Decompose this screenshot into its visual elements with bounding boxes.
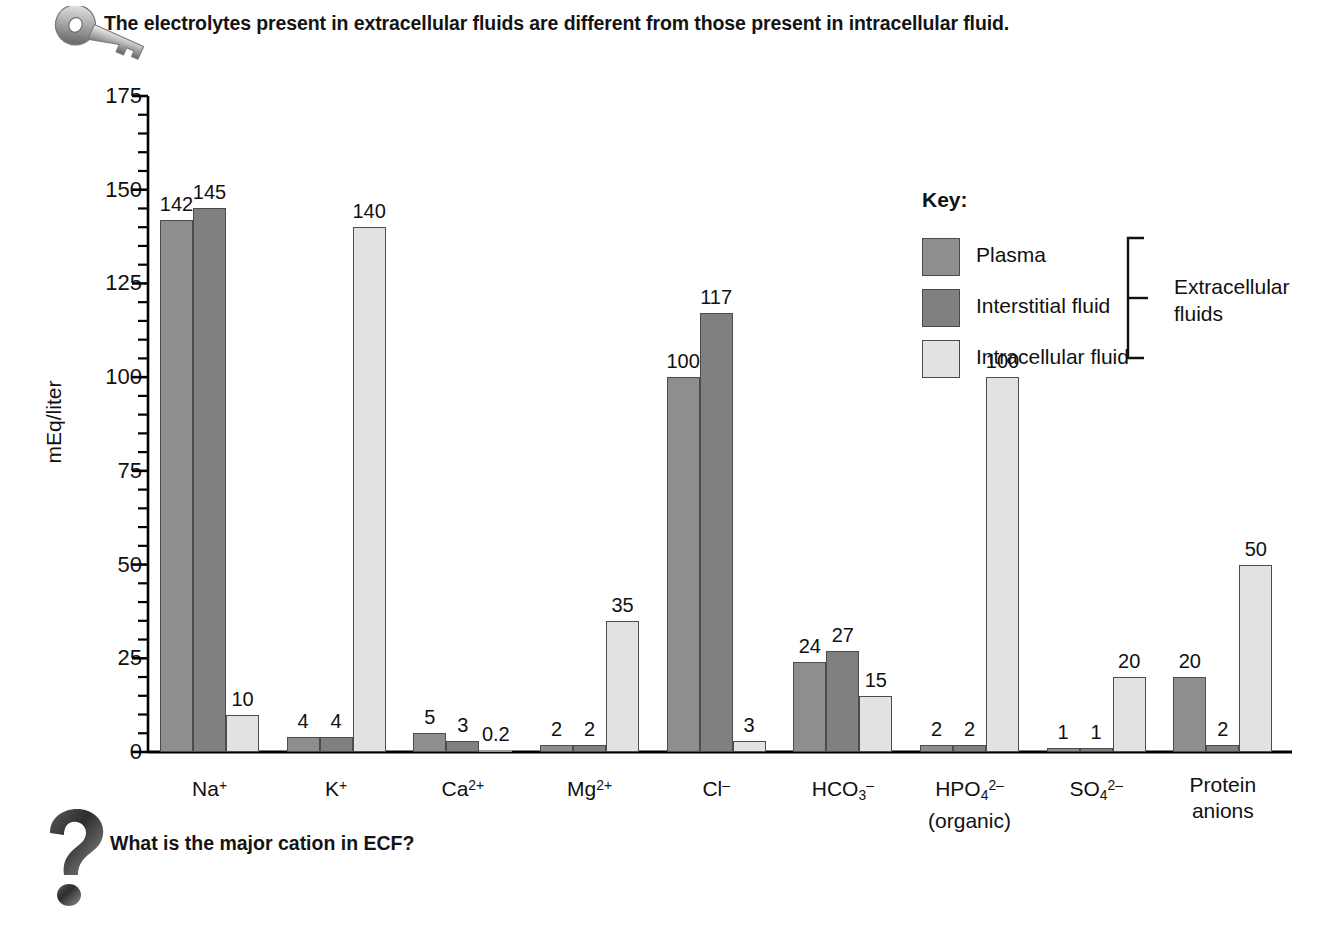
bracket-label: Extracellular fluids	[1174, 273, 1324, 327]
bar	[667, 377, 700, 752]
legend-swatch-intracellular-fluid	[922, 340, 960, 378]
bar-value-label: 10	[231, 688, 253, 711]
x-axis-label: Mg2+	[567, 772, 612, 802]
bar	[1113, 677, 1146, 752]
bar-value-label: 27	[832, 624, 854, 647]
bar	[160, 220, 193, 752]
page-title: The electrolytes present in extracellula…	[104, 11, 1284, 35]
bar	[920, 745, 953, 752]
bar	[1206, 745, 1239, 752]
bar-value-label: 1	[1091, 721, 1102, 744]
x-axis-label: Cl–	[702, 772, 730, 802]
bar-value-label: 4	[331, 710, 342, 733]
bar-value-label: 50	[1245, 538, 1267, 561]
bar	[226, 715, 259, 752]
bar-value-label: 5	[424, 706, 435, 729]
x-axis-label: Ca2+	[441, 772, 484, 802]
bar	[479, 750, 512, 753]
bar-value-label: 0.2	[482, 723, 510, 746]
legend-label-interstitial-fluid: Interstitial fluid	[976, 294, 1110, 318]
bracket-label-line1: Extracellular	[1174, 275, 1290, 298]
bar-group: 2235	[540, 96, 639, 752]
bar	[606, 621, 639, 752]
bar-value-label: 140	[352, 200, 385, 223]
bar	[446, 741, 479, 752]
bar-group: 1001173	[667, 96, 766, 752]
bar-value-label: 2	[584, 718, 595, 741]
bar	[1047, 748, 1080, 752]
bar-group: 530.2	[413, 96, 512, 752]
bar-value-label: 15	[865, 669, 887, 692]
bar-value-label: 100	[666, 350, 699, 373]
bar	[793, 662, 826, 752]
legend-label-plasma: Plasma	[976, 243, 1046, 267]
bar	[953, 745, 986, 752]
bar-group: 44140	[287, 96, 386, 752]
chart: mEq/liter 0255075100125150175 1421451044…	[0, 80, 1326, 780]
bar	[1080, 748, 1113, 752]
legend: Key: Plasma Interstitial fluid Intracell…	[922, 188, 1314, 388]
bar-value-label: 20	[1118, 650, 1140, 673]
bar	[1173, 677, 1206, 752]
bar-value-label: 35	[611, 594, 633, 617]
bar	[413, 733, 446, 752]
bar	[353, 227, 386, 752]
question-text: What is the major cation in ECF?	[110, 832, 414, 855]
bar-value-label: 2	[964, 718, 975, 741]
bar-value-label: 2	[1217, 718, 1228, 741]
question-mark-icon	[38, 805, 118, 910]
bar-group: 14214510	[160, 96, 259, 752]
bar-value-label: 20	[1179, 650, 1201, 673]
bar-value-label: 2	[551, 718, 562, 741]
x-axis-label: K+	[325, 772, 347, 802]
bar	[1239, 565, 1272, 752]
bar-value-label: 142	[160, 193, 193, 216]
bar	[540, 745, 573, 752]
legend-swatch-interstitial-fluid	[922, 289, 960, 327]
bar-value-label: 3	[457, 714, 468, 737]
bar-value-label: 145	[193, 181, 226, 204]
bar	[320, 737, 353, 752]
bar-value-label: 3	[744, 714, 755, 737]
footer-question: What is the major cation in ECF?	[0, 800, 1326, 920]
header: The electrolytes present in extracellula…	[0, 0, 1326, 80]
bar	[733, 741, 766, 752]
bar-value-label: 1	[1058, 721, 1069, 744]
bar	[193, 208, 226, 752]
legend-label-intracellular-fluid: Intracellular fluid	[976, 345, 1129, 369]
bar	[826, 651, 859, 752]
bar-value-label: 117	[700, 286, 732, 309]
bar	[986, 377, 1019, 752]
bar-value-label: 4	[298, 710, 309, 733]
bar	[573, 745, 606, 752]
bar-value-label: 24	[799, 635, 821, 658]
bar-group: 242715	[793, 96, 892, 752]
x-axis-label: Na+	[192, 772, 227, 802]
bar	[287, 737, 320, 752]
bar	[859, 696, 892, 752]
bar	[700, 313, 733, 752]
legend-title: Key:	[922, 188, 968, 212]
extracellular-bracket-icon	[1122, 236, 1182, 360]
legend-swatch-plasma	[922, 238, 960, 276]
bar-value-label: 2	[931, 718, 942, 741]
bracket-label-line2: fluids	[1174, 302, 1223, 325]
